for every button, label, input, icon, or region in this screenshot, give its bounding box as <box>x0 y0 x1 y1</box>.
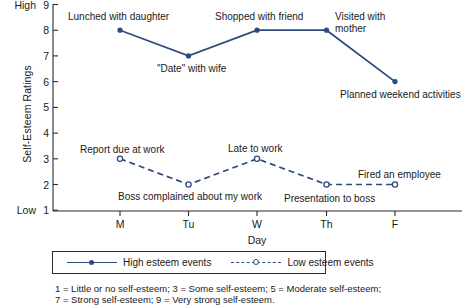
annotation-lunched-with-daughter: Lunched with daughter <box>68 11 170 22</box>
data-point-high-tu <box>186 53 191 58</box>
annotation-presentation-to-boss: Presentation to boss <box>284 193 375 204</box>
y-tick-label-2: 2 <box>43 179 49 191</box>
y-tick-label-9: 9 <box>43 0 49 11</box>
y-tick-label-5: 5 <box>43 101 49 113</box>
y-axis-high-label: High <box>14 0 36 11</box>
data-point-high-w <box>254 28 259 33</box>
annotation-boss-complained: Boss complained about my work <box>118 191 263 202</box>
y-tick-label-3: 3 <box>43 153 49 165</box>
chart-footnote: 1 = Little or no self-esteem; 3 = Some s… <box>55 283 455 305</box>
y-tick-label-7: 7 <box>43 50 49 62</box>
x-tick-label-m: M <box>116 218 125 230</box>
legend-swatch-solid-line-icon <box>67 258 117 268</box>
data-point-low-f <box>392 182 397 187</box>
annotation-visited-with-mother-line1: Visited with <box>335 11 385 22</box>
annotation-fired-an-employee: Fired an employee <box>358 169 441 180</box>
y-tick-label-1: 1 <box>43 204 49 216</box>
series-markers-high-esteem <box>117 28 397 85</box>
legend-item-low-esteem[interactable]: Low esteem events <box>231 257 373 268</box>
footnote-line-1: 1 = Little or no self-esteem; 3 = Some s… <box>55 283 455 294</box>
x-axis-title: Day <box>248 234 267 246</box>
footnote-line-2: 7 = Strong self-esteem; 9 = Very strong … <box>55 294 455 305</box>
chart-legend: High esteem events Low esteem events <box>52 251 326 274</box>
y-tick-label-4: 4 <box>43 127 49 139</box>
y-axis-low-label: Low <box>17 204 37 216</box>
series-line-low-esteem <box>120 159 395 185</box>
x-tick-marks <box>120 211 395 216</box>
x-tick-label-th: Th <box>320 218 332 230</box>
data-point-high-th <box>324 28 329 33</box>
x-tick-label-w: W <box>252 218 262 230</box>
annotation-late-to-work: Late to work <box>228 143 283 154</box>
data-point-high-m <box>117 28 122 33</box>
data-point-high-f <box>392 79 397 84</box>
annotation-planned-weekend-activities: Planned weekend activities <box>340 89 461 100</box>
annotation-date-with-wife: "Date" with wife <box>157 63 227 74</box>
data-point-low-m <box>117 156 122 161</box>
x-tick-label-f: F <box>392 218 398 230</box>
data-point-low-tu <box>186 182 191 187</box>
series-markers-low-esteem <box>117 156 397 187</box>
y-tick-label-8: 8 <box>43 24 49 36</box>
data-point-low-w <box>254 156 259 161</box>
data-point-low-th <box>324 182 329 187</box>
legend-label-high-esteem: High esteem events <box>123 257 211 268</box>
y-tick-marks <box>53 5 58 211</box>
y-tick-label-6: 6 <box>43 76 49 88</box>
annotation-report-due-at-work: Report due at work <box>80 144 165 155</box>
annotation-shopped-with-friend: Shopped with friend <box>215 11 303 22</box>
x-tick-label-tu: Tu <box>183 218 195 230</box>
legend-swatch-dashed-line-icon <box>231 258 281 268</box>
legend-label-low-esteem: Low esteem events <box>287 257 373 268</box>
annotation-visited-with-mother-line2: mother <box>335 23 367 34</box>
legend-item-high-esteem[interactable]: High esteem events <box>67 257 211 268</box>
